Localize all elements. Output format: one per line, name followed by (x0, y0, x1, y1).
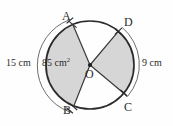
sector-area-value: 85 cm (42, 57, 67, 68)
arc-length-label-right: 9 cm (142, 58, 162, 68)
geometry-figure: A D C B O 15 cm 9 cm 85 cm2 (0, 0, 173, 126)
centre-label-o: O (85, 68, 94, 80)
point-label-a: A (62, 10, 71, 22)
arc-length-label-left: 15 cm (6, 58, 31, 68)
point-label-b: B (63, 104, 71, 116)
point-label-d: D (124, 16, 133, 28)
sector-area-label: 85 cm2 (42, 58, 70, 68)
point-label-c: C (124, 101, 132, 113)
sector-area-exponent: 2 (67, 56, 70, 63)
